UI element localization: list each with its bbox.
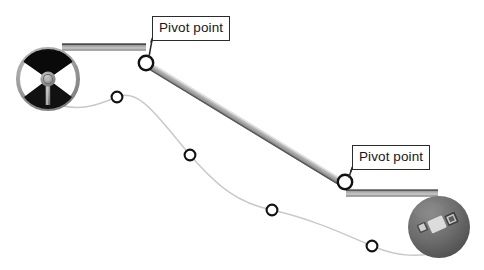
wiring-harness-curve: [52, 95, 446, 255]
callout-label-lower: Pivot point: [359, 149, 423, 164]
intermediate-linkage-rod: [149, 64, 341, 184]
upper-steering-shaft: [62, 44, 146, 51]
callout-label-upper: Pivot point: [159, 20, 223, 35]
harness-clip-3: [267, 205, 278, 216]
harness-clip-markers: [112, 92, 378, 252]
harness-clip-2: [185, 150, 196, 161]
harness-clip-4: [367, 241, 378, 252]
illustration-canvas: Pivot point Pivot point: [0, 0, 484, 270]
lower-pivot-joint: [338, 175, 352, 189]
lower-steering-shaft: [346, 190, 438, 197]
callout-pivot-point-lower: Pivot point: [352, 145, 430, 170]
upper-pivot-joint: [139, 56, 153, 70]
callout-pivot-point-upper: Pivot point: [152, 16, 230, 41]
steering-gearbox: [408, 196, 470, 258]
linkage-diagram-svg: [0, 0, 484, 270]
harness-clip-1: [112, 92, 123, 103]
callout-leader-lines: [149, 37, 353, 177]
steering-wheel: [16, 47, 80, 111]
